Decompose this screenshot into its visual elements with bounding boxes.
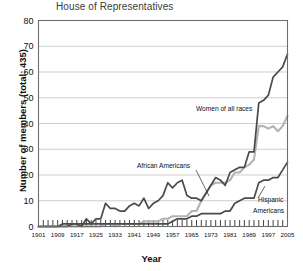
plot-area: 01020304050607080 1901190919171925193319… [0, 0, 303, 271]
x-tick-label: 1949 [147, 231, 161, 238]
hispanic-americans-label-line2: Americans [253, 207, 285, 214]
women-of-all-races-label: Women of all races [196, 105, 253, 112]
x-tick-label: 1965 [185, 231, 199, 238]
y-axis-tick-labels: 01020304050607080 [23, 16, 33, 232]
x-axis-tick-labels: 1901190919171925193319411949195719651973… [32, 231, 295, 238]
x-tick-label: 1925 [89, 231, 103, 238]
y-tick-label: 20 [23, 170, 33, 180]
x-tick-label: 1981 [223, 231, 237, 238]
x-tick-label: 1957 [166, 231, 180, 238]
y-tick-label: 80 [23, 16, 33, 26]
x-tick-label: 1973 [204, 231, 218, 238]
hispanic-americans-label-line1: Hispanic [258, 196, 284, 204]
x-tick-label: 1997 [261, 231, 275, 238]
chart-container: House of Representatives Number of membe… [0, 0, 303, 271]
x-tick-label: 1941 [127, 231, 141, 238]
x-tick-label: 1901 [32, 231, 46, 238]
x-tick-label: 1909 [51, 231, 65, 238]
x-tick-label: 1933 [108, 231, 122, 238]
chart-svg: 01020304050607080 1901190919171925193319… [0, 0, 303, 271]
y-tick-label: 40 [23, 119, 33, 129]
y-tick-label: 70 [23, 41, 33, 51]
y-tick-label: 30 [23, 144, 33, 154]
annotations: Women of all races African Americans His… [137, 105, 285, 214]
x-tick-label: 1989 [242, 231, 256, 238]
series-line-african-americans [39, 116, 288, 227]
african-americans-label: African Americans [137, 162, 191, 169]
y-tick-label: 50 [23, 93, 33, 103]
y-tick-label: 60 [23, 67, 33, 77]
y-tick-label: 10 [23, 196, 33, 206]
x-tick-label: 2005 [281, 231, 295, 238]
african-americans-leader [196, 170, 209, 196]
x-tick-label: 1917 [70, 231, 84, 238]
